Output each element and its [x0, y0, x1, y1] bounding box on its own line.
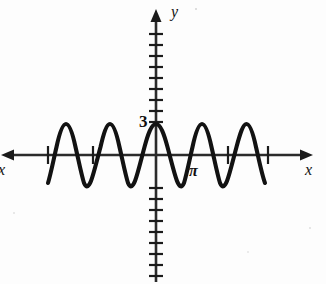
scan-speck	[247, 251, 249, 253]
x-axis-arrow-right	[300, 150, 313, 161]
x-tick-label-pi: π	[189, 163, 198, 179]
scan-speck	[195, 8, 197, 10]
x-axis-label-left: x	[0, 162, 5, 178]
graph-canvas	[0, 0, 326, 284]
x-axis-label-right: x	[305, 162, 312, 178]
y-tick-label-3: 3	[139, 113, 148, 130]
y-axis-label: y	[171, 4, 178, 20]
x-axis-arrow-left	[1, 150, 14, 161]
math-graph-figure: y x x 3 π	[0, 0, 326, 284]
scan-speck	[309, 227, 311, 229]
y-axis-arrow-up	[151, 9, 162, 22]
scan-speck	[13, 212, 15, 214]
y-axis	[151, 9, 162, 282]
